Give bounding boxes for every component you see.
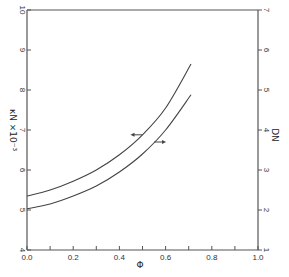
right-y-tick-label: 3 — [262, 168, 271, 173]
left-y-tick-label: 5 — [18, 208, 27, 213]
right-y-axis-ticks: 1234567 — [258, 8, 271, 253]
right-arrowhead-icon — [162, 140, 166, 144]
right-y-tick-label: 2 — [262, 208, 271, 213]
left-y-tick-label: 7 — [18, 128, 27, 133]
x-tick-label: 0.0 — [21, 253, 33, 262]
curves — [27, 64, 191, 209]
x-axis-title: Φ — [136, 260, 143, 270]
x-tick-label: 1.0 — [252, 253, 264, 262]
x-tick-label: 0.6 — [160, 253, 172, 262]
left-y-tick-label: 4 — [18, 248, 27, 253]
left-y-tick-label: 6 — [18, 168, 27, 173]
right-y-tick-label: 5 — [262, 88, 271, 93]
right-y-axis-title: DN — [270, 128, 280, 142]
x-tick-label: 0.8 — [206, 253, 218, 262]
left-y-axis-title: κN ×10⁻³ — [8, 109, 18, 152]
kappa-curve — [27, 64, 191, 196]
right-y-tick-label: 6 — [262, 48, 271, 53]
right-y-tick-label: 7 — [262, 8, 271, 13]
left-y-tick-label: 9 — [18, 48, 27, 53]
d-curve — [27, 95, 191, 209]
left-arrowhead-icon — [131, 133, 135, 137]
left-y-axis-ticks: 45678910 — [18, 6, 31, 253]
x-tick-label: 0.2 — [68, 253, 80, 262]
left-y-tick-label: 8 — [18, 88, 27, 93]
left-y-tick-label: 10 — [18, 6, 27, 15]
right-y-tick-label: 1 — [262, 248, 271, 253]
chart: 0.00.20.40.60.81.0 45678910 1234567 Φ κN… — [0, 0, 289, 277]
x-tick-label: 0.4 — [114, 253, 126, 262]
right-y-tick-label: 4 — [262, 128, 271, 133]
axis-indicator-arrows — [131, 133, 167, 144]
plot-frame — [27, 10, 258, 250]
